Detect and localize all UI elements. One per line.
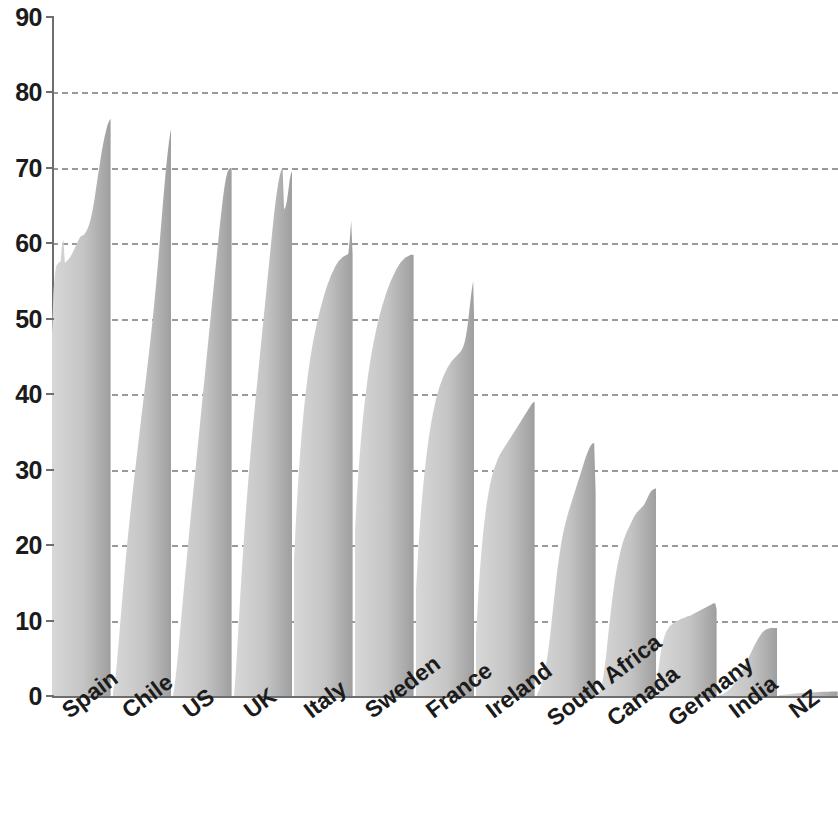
y-axis-tick-90 [46, 16, 54, 18]
series-column [598, 17, 657, 696]
y-axis-tick-0 [46, 695, 54, 697]
y-axis-tick-80 [46, 91, 54, 93]
series-area-path [52, 119, 111, 696]
y-axis-tick-70 [46, 167, 54, 169]
y-axis-tick-labels: 0102030405060708090 [0, 0, 46, 717]
series-area-svg [113, 17, 172, 696]
chart-container: 0102030405060708090 SpainChileUSUKItalyS… [0, 0, 838, 817]
y-axis-tick-50 [46, 318, 54, 320]
series-column [476, 17, 535, 696]
series-column [779, 17, 838, 696]
y-tick-label-10: 10 [15, 608, 42, 633]
y-axis-tick-30 [46, 469, 54, 471]
series-area-svg [52, 17, 111, 696]
series-column [658, 17, 717, 696]
series-area-path [476, 402, 535, 696]
series-area-svg [476, 17, 535, 696]
y-tick-label-50: 50 [15, 306, 42, 331]
x-axis-category-labels: SpainChileUSUKItalySwedenFranceIrelandSo… [0, 698, 838, 817]
y-axis-tick-20 [46, 544, 54, 546]
series-area-path [355, 255, 414, 696]
y-tick-label-20: 20 [15, 533, 42, 558]
series-area-svg [719, 17, 778, 696]
series-column [355, 17, 414, 696]
series-area-path [173, 168, 232, 696]
series-layer [52, 17, 838, 696]
y-tick-label-70: 70 [15, 155, 42, 180]
series-area-svg [537, 17, 596, 696]
y-axis-tick-60 [46, 242, 54, 244]
y-axis-tick-10 [46, 620, 54, 622]
series-area-path [416, 281, 475, 696]
series-column [719, 17, 778, 696]
series-area-path [294, 221, 353, 696]
series-area-svg [294, 17, 353, 696]
series-area-svg [355, 17, 414, 696]
series-column [537, 17, 596, 696]
series-area-path [537, 443, 596, 696]
y-tick-label-30: 30 [15, 457, 42, 482]
series-column [234, 17, 293, 696]
series-area-svg [416, 17, 475, 696]
series-area-path [113, 126, 172, 696]
series-column [113, 17, 172, 696]
series-area-svg [234, 17, 293, 696]
series-area-svg [779, 17, 838, 696]
series-area-path [234, 168, 293, 696]
series-area-svg [173, 17, 232, 696]
series-column [173, 17, 232, 696]
y-tick-label-40: 40 [15, 382, 42, 407]
y-tick-label-80: 80 [15, 80, 42, 105]
series-area-svg [658, 17, 717, 696]
series-column [294, 17, 353, 696]
y-axis-tick-40 [46, 393, 54, 395]
y-tick-label-60: 60 [15, 231, 42, 256]
series-column [52, 17, 111, 696]
series-column [416, 17, 475, 696]
y-tick-label-90: 90 [15, 5, 42, 30]
series-area-svg [598, 17, 657, 696]
